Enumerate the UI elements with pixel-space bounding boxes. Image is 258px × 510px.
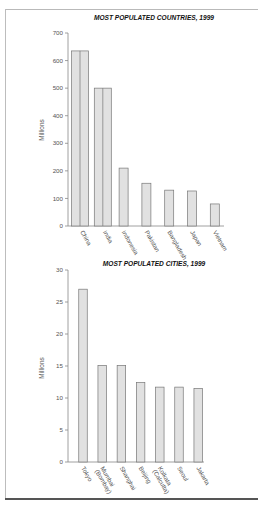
- charts-canvas: MOST POPULATED COUNTRIES, 19990100200300…: [0, 0, 258, 510]
- y-tick-label: 10: [56, 394, 63, 401]
- category-label: Mumbai(Bombay): [94, 465, 119, 495]
- y-tick-label: 15: [56, 362, 63, 369]
- y-tick-label: 0: [60, 222, 64, 229]
- category-label: Vietnam: [212, 229, 229, 252]
- bar-jakarta: [194, 388, 203, 462]
- category-label-line: Vietnam: [212, 229, 229, 252]
- y-tick-label: 25: [56, 298, 63, 305]
- y-tick-label: 500: [53, 84, 64, 91]
- category-label: Seoul: [176, 465, 190, 482]
- category-label: Shanghai: [119, 465, 138, 491]
- bar-seoul: [175, 387, 184, 462]
- category-label: Pakistan: [144, 229, 162, 254]
- y-axis-label: Millions: [38, 357, 45, 378]
- y-tick-label: 600: [53, 57, 64, 64]
- y-tick-label: 300: [53, 139, 64, 146]
- category-label-line: Beijing: [138, 465, 154, 485]
- chart-cities: MOST POPULATED CITIES, 1999051015202530M…: [38, 260, 212, 495]
- bar-kolkata-calcutta: [156, 387, 165, 462]
- category-label: Indonesia: [121, 229, 141, 256]
- category-label: China: [79, 229, 93, 247]
- category-label: Bangladesh: [166, 229, 189, 261]
- category-label-line: Bangladesh: [166, 229, 189, 261]
- y-tick-label: 30: [56, 266, 63, 273]
- bar-indonesia: [119, 168, 128, 226]
- y-tick-label: 400: [53, 112, 64, 119]
- category-label-line: China: [79, 229, 93, 247]
- y-tick-label: 700: [53, 29, 64, 36]
- bar-shanghai: [117, 365, 126, 462]
- bar-pakistan: [142, 183, 151, 226]
- y-tick-label: 0: [60, 458, 64, 465]
- category-label: Japan: [189, 229, 204, 248]
- bar-bangladesh: [165, 190, 174, 226]
- bar-japan: [188, 191, 197, 226]
- y-tick-label: 200: [53, 167, 64, 174]
- category-label-line: India: [102, 229, 115, 245]
- category-label-line: Jakarta: [195, 465, 211, 487]
- y-tick-label: 100: [53, 195, 64, 202]
- chart-title: MOST POPULATED COUNTRIES, 1999: [94, 14, 214, 22]
- bar-beijing: [136, 383, 145, 462]
- bar-mumbai-bombay: [98, 365, 107, 462]
- chart-title: MOST POPULATED CITIES, 1999: [103, 260, 206, 268]
- category-label-line: Indonesia: [121, 229, 141, 256]
- category-label-line: Shanghai: [119, 465, 138, 491]
- y-tick-label: 20: [56, 330, 63, 337]
- category-label-line: Pakistan: [144, 229, 162, 254]
- category-label: India: [102, 229, 115, 245]
- chart-countries: MOST POPULATED COUNTRIES, 19990100200300…: [38, 14, 229, 261]
- bar-vietnam: [210, 204, 219, 226]
- category-label: Jakarta: [195, 465, 211, 487]
- category-label: Kolkata(Calcutta): [152, 465, 177, 495]
- category-label-line: Japan: [189, 229, 204, 248]
- category-label: Tokyo: [80, 465, 94, 483]
- bar-tokyo: [79, 289, 88, 462]
- category-label-line: Seoul: [176, 465, 190, 482]
- y-axis-label: Millions: [38, 119, 45, 140]
- category-label-line: Tokyo: [80, 465, 94, 483]
- category-label: Beijing: [138, 465, 154, 485]
- y-tick-label: 5: [60, 426, 64, 433]
